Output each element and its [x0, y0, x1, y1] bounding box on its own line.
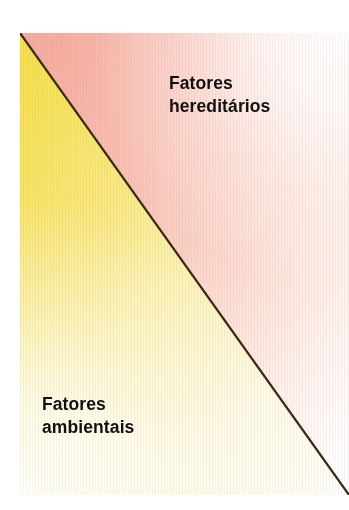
environmental-factors-label-line1: Fatores [42, 393, 134, 416]
hereditary-factors-label-line1: Fatores [169, 72, 270, 95]
hereditary-factors-label: Fatores hereditários [169, 72, 270, 119]
figure-container: Fatores hereditários Fatores ambientais [0, 0, 349, 510]
environmental-factors-label: Fatores ambientais [42, 393, 134, 440]
environmental-factors-label-line2: ambientais [42, 416, 134, 439]
hereditary-factors-label-line2: hereditários [169, 95, 270, 118]
